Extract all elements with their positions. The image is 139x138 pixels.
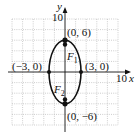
y-tick-label: 10 xyxy=(52,11,64,23)
focus-1-label: F1 xyxy=(66,50,78,65)
x-tick-label: 10 xyxy=(116,72,128,84)
ellipse-plot: y 10 x 10 (0, 6) (0, −6) (−3, 0) (3, 0) … xyxy=(0,0,139,138)
y-axis-arrow-icon xyxy=(63,7,68,13)
left-vertex-label: (−3, 0) xyxy=(12,60,42,73)
x-axis-label: x xyxy=(128,72,134,84)
bottom-vertex-label: (0, −6) xyxy=(67,110,97,123)
point-left-vertex xyxy=(47,70,51,74)
right-vertex-label: (3, 0) xyxy=(85,60,109,73)
point-top-vertex xyxy=(62,38,67,43)
point-right-vertex xyxy=(79,70,83,74)
top-vertex-label: (0, 6) xyxy=(67,26,91,39)
focus-1-point xyxy=(63,42,67,46)
point-bottom-vertex xyxy=(62,101,67,106)
